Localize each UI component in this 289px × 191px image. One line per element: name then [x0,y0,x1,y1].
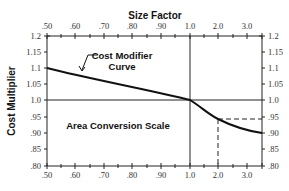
y-tick-label: 1.1 [30,63,41,73]
y-tick-label: .95 [268,112,279,122]
annotation-label-line2: Curve [109,61,136,72]
top-axis-title: Size Factor [128,10,181,21]
x-tick-label: .50 [42,21,53,31]
y-tick-label: 1.2 [268,31,279,41]
y-tick-label: .80 [30,161,41,171]
y-tick-label: 1.0 [268,95,279,105]
left-y-tick-labels: 1.2 1.15 1.1 1.05 1.0 .95 .90 .85 .80 [26,31,41,171]
x-tick-label: 3.0 [242,170,253,180]
cost-modifier-chart: .50 .60 .70 .80 .90 1.0 2.0 3.0 .50 .60 … [0,0,289,191]
y-tick-label: .80 [268,161,279,171]
x-tick-label: .70 [99,170,110,180]
y-tick-label: .95 [30,112,41,122]
x-tick-label: .60 [70,170,81,180]
y-tick-label: 1.1 [268,63,279,73]
x-tick-label: .90 [156,170,167,180]
top-x-tick-labels: .50 .60 .70 .80 .90 1.0 2.0 3.0 [42,21,253,31]
area-conversion-scale-label: Area Conversion Scale [66,120,170,131]
y-tick-label: 1.15 [26,47,41,57]
x-tick-label: .90 [156,21,167,31]
right-y-tick-labels: 1.2 1.15 1.1 1.05 1.0 .95 .90 .85 .80 [268,31,283,171]
x-tick-label: 1.0 [185,170,196,180]
y-tick-label: 1.0 [30,95,41,105]
bottom-x-tick-labels: .50 .60 .70 .80 .90 1.0 2.0 3.0 [42,170,253,180]
y-tick-label: 1.05 [26,79,41,89]
x-tick-label: .80 [127,170,138,180]
axes [47,36,262,166]
x-tick-label: 2.0 [213,170,224,180]
annotation-label-line1: Cost Modifier [92,50,153,61]
x-tick-label: .70 [99,21,110,31]
y-tick-label: .85 [268,144,279,154]
x-tick-label: .60 [70,21,81,31]
x-tick-label: 2.0 [213,21,224,31]
y-tick-label: 1.05 [268,79,283,89]
x-tick-label: 1.0 [185,21,196,31]
y-axis-title: Cost Multiplier [6,66,17,136]
y-tick-label: .90 [30,128,41,138]
y-tick-label: .90 [268,128,279,138]
y-tick-label: 1.2 [30,31,41,41]
x-tick-label: .80 [127,21,138,31]
x-tick-label: 3.0 [242,21,253,31]
y-tick-label: .85 [30,144,41,154]
x-tick-label: .50 [42,170,53,180]
y-tick-label: 1.15 [268,47,283,57]
